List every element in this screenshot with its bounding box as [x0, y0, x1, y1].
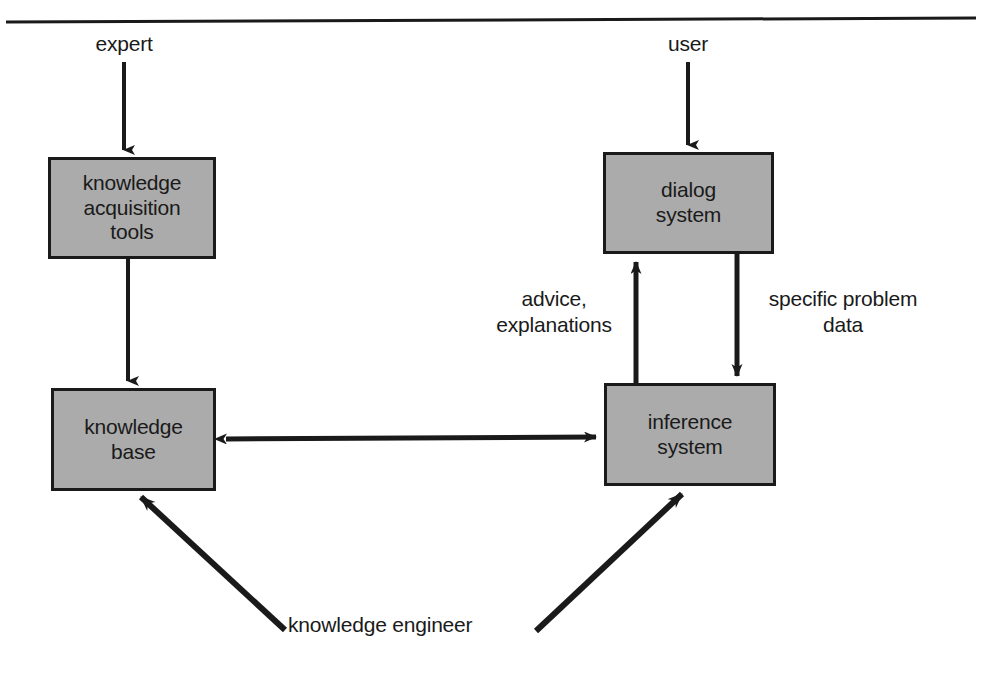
node-label-knowledge-acquisition-tools: knowledge acquisition tools: [83, 171, 182, 245]
node-dialog-system[interactable]: dialog system: [603, 152, 774, 254]
edge-label-advice-explanations: advice, explanations: [454, 286, 654, 339]
node-label-inference-system: inference system: [648, 410, 733, 460]
edge-label-knowledge-engineer: knowledge engineer: [288, 612, 538, 638]
edge-kb-inference-bidirectional: [226, 437, 596, 439]
edge-label-specific-problem-data: specific problem data: [742, 286, 944, 339]
node-label-dialog-system: dialog system: [656, 178, 721, 228]
actor-label-expert: expert: [64, 32, 184, 56]
actor-label-user: user: [628, 32, 748, 56]
node-inference-system[interactable]: inference system: [604, 383, 776, 486]
top-rule: [6, 18, 976, 22]
diagram-canvas: expert user knowledge acquisition tools …: [0, 0, 982, 680]
edge-engineer-to-inference: [536, 494, 682, 631]
node-label-knowledge-base: knowledge base: [84, 415, 183, 465]
edge-engineer-to-kb: [141, 497, 285, 630]
node-knowledge-acquisition-tools[interactable]: knowledge acquisition tools: [48, 157, 216, 259]
diagram-connectors: [0, 0, 982, 680]
node-knowledge-base[interactable]: knowledge base: [51, 388, 216, 491]
